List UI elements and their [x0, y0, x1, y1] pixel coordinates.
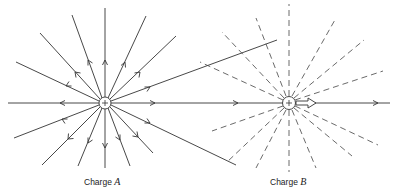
- charge-b: [283, 97, 296, 110]
- charge-a: [99, 97, 111, 109]
- charge-a-label: Charge A: [84, 176, 120, 187]
- charge-b-dashed-lines: [200, 4, 383, 172]
- charge-b-label: Charge B: [270, 176, 306, 187]
- field-diagram: [0, 0, 395, 194]
- charge-a-field-lines: [8, 8, 283, 168]
- force-arrow-icon: [296, 98, 316, 108]
